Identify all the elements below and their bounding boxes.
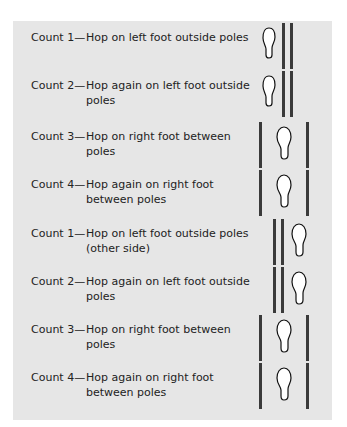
foot-print-icon bbox=[276, 174, 292, 208]
footwork-diagram bbox=[253, 314, 323, 362]
pole-icon bbox=[273, 267, 276, 313]
step-row-4: Count 4— Hop again on right foot between… bbox=[13, 169, 332, 217]
pole-icon bbox=[259, 122, 262, 168]
step-description: Hop again on right foot between poles bbox=[86, 370, 256, 400]
count-label: Count 2— bbox=[31, 274, 85, 289]
count-label: Count 3— bbox=[31, 322, 85, 337]
step-row-1: Count 1— Hop on left foot outside poles bbox=[13, 22, 332, 70]
pole-icon bbox=[281, 219, 284, 265]
pole-icon bbox=[306, 363, 309, 409]
step-description: Hop again on right foot between poles bbox=[86, 177, 256, 207]
step-description: Hop on left foot outside poles (other si… bbox=[86, 226, 256, 256]
count-label: Count 1— bbox=[31, 226, 85, 241]
foot-print-icon bbox=[276, 126, 292, 160]
count-label: Count 3— bbox=[31, 129, 85, 144]
pole-icon bbox=[281, 267, 284, 313]
step-row-8: Count 4— Hop again on right foot between… bbox=[13, 362, 332, 410]
count-label: Count 4— bbox=[31, 177, 85, 192]
pole-icon bbox=[282, 71, 285, 117]
count-label: Count 4— bbox=[31, 370, 85, 385]
pole-icon bbox=[259, 170, 262, 216]
step-description: Hop again on left foot outside poles bbox=[86, 78, 256, 108]
footwork-diagram bbox=[253, 22, 323, 70]
footwork-diagram bbox=[253, 218, 323, 266]
footwork-diagram bbox=[253, 121, 323, 169]
step-row-2: Count 2— Hop again on left foot outside … bbox=[13, 70, 332, 118]
footwork-diagram bbox=[253, 70, 323, 118]
foot-print-icon bbox=[291, 271, 307, 305]
step-description: Hop on right foot between poles bbox=[86, 322, 256, 352]
foot-print-icon bbox=[276, 367, 292, 401]
pole-icon bbox=[306, 315, 309, 361]
foot-print-icon bbox=[291, 223, 307, 257]
count-label: Count 2— bbox=[31, 78, 85, 93]
step-row-6: Count 2— Hop again on left foot outside … bbox=[13, 266, 332, 314]
pole-icon bbox=[282, 23, 285, 69]
foot-print-icon bbox=[262, 27, 276, 59]
footwork-diagram bbox=[253, 362, 323, 410]
pole-icon bbox=[290, 71, 293, 117]
pole-icon bbox=[306, 170, 309, 216]
step-row-7: Count 3— Hop on right foot between poles bbox=[13, 314, 332, 362]
pole-icon bbox=[259, 315, 262, 361]
step-description: Hop on right foot between poles bbox=[86, 129, 256, 159]
footwork-diagram bbox=[253, 169, 323, 217]
pole-icon bbox=[259, 363, 262, 409]
foot-print-icon bbox=[262, 75, 276, 107]
pole-icon bbox=[273, 219, 276, 265]
footwork-diagram bbox=[253, 266, 323, 314]
step-row-3: Count 3— Hop on right foot between poles bbox=[13, 121, 332, 169]
pole-icon bbox=[290, 23, 293, 69]
step-description: Hop again on left foot outside poles bbox=[86, 274, 256, 304]
step-description: Hop on left foot outside poles bbox=[86, 30, 256, 45]
step-row-5: Count 1— Hop on left foot outside poles … bbox=[13, 218, 332, 266]
count-label: Count 1— bbox=[31, 30, 85, 45]
pole-icon bbox=[306, 122, 309, 168]
foot-print-icon bbox=[276, 319, 292, 353]
instruction-panel: Count 1— Hop on left foot outside poles … bbox=[13, 21, 332, 420]
